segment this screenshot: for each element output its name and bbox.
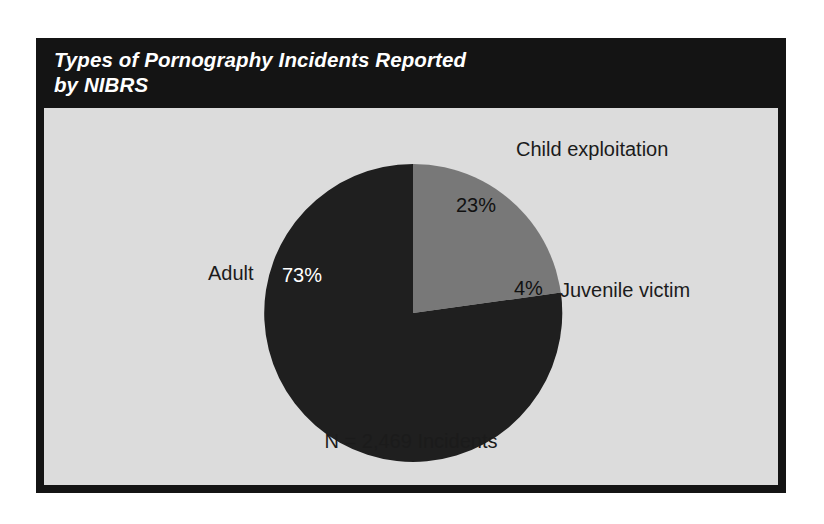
chart-panel: Child exploitation Juvenile victim Adult…	[44, 108, 778, 485]
figure-title-bar: Types of Pornography Incidents Reported …	[36, 38, 786, 108]
pie-chart: Child exploitation Juvenile victim Adult…	[44, 108, 778, 485]
figure-caption: N = 2,469 Incidents	[44, 430, 778, 453]
pie-label-adult: Adult	[208, 263, 254, 283]
pie-value-child-exploitation: 23%	[456, 195, 496, 215]
pie-label-child-exploitation: Child exploitation	[516, 139, 668, 159]
figure-frame: Types of Pornography Incidents Reported …	[36, 38, 786, 493]
pie-value-adult: 73%	[282, 265, 322, 285]
pie-value-juvenile-victim: 4%	[514, 278, 543, 298]
figure-title-line-1: Types of Pornography Incidents Reported	[54, 47, 786, 72]
figure-title-line-2: by NIBRS	[54, 72, 786, 97]
pie-label-juvenile-victim: Juvenile victim	[560, 280, 690, 300]
